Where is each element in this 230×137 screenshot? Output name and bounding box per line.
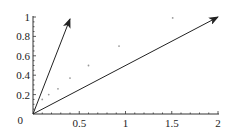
data-point [41, 99, 43, 101]
x-tick-label: 2 [215, 117, 221, 129]
x-tick-label: 1.5 [165, 117, 179, 129]
y-tick-label: 0.8 [16, 30, 30, 42]
origin-label: 0 [18, 114, 24, 126]
chart: 0.511.520.20.40.60.810 [0, 0, 230, 137]
y-tick-label: 0.4 [16, 69, 30, 81]
data-point [118, 45, 120, 47]
x-tick-label: 0.5 [72, 117, 86, 129]
series [33, 17, 218, 114]
data-point [57, 88, 59, 90]
axes: 0.511.520.20.40.60.810 [16, 11, 221, 129]
data-point [69, 77, 71, 79]
x-tick-label: 1 [123, 117, 129, 129]
vector-2-arrow [33, 17, 218, 114]
y-tick-label: 0.6 [16, 50, 30, 62]
y-tick-label: 1 [25, 11, 31, 23]
y-tick-label: 0.2 [16, 89, 30, 101]
data-point [172, 17, 174, 19]
data-point [88, 65, 90, 67]
data-point [48, 94, 50, 96]
vector-1-arrow [33, 19, 70, 114]
